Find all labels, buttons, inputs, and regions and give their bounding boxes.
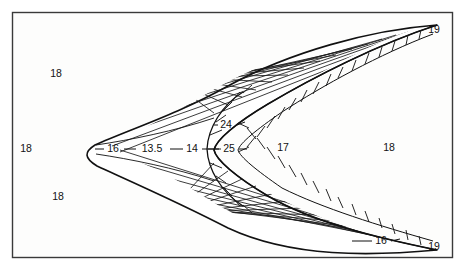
label-region-19-top-right: 19 [428, 23, 440, 35]
label-region-18-right: 18 [383, 141, 395, 153]
figure-page: 16 13.5 14 25 24 17 18 18 18 18 19 19 16 [0, 0, 465, 271]
label-region-19-bottom-right: 19 [428, 240, 440, 252]
label-centerline-1: 13.5 [142, 142, 163, 154]
label-centerline-2: 14 [186, 142, 198, 154]
label-region-18-left: 18 [20, 142, 32, 154]
label-inner-arc-24: 24 [220, 118, 232, 130]
label-region-17: 17 [277, 141, 289, 153]
label-region-18-top-left: 18 [50, 67, 62, 79]
crescent-diagram: 16 13.5 14 25 24 17 18 18 18 18 19 19 16 [0, 0, 465, 271]
label-centerline-0: 16 [107, 142, 119, 154]
label-centerline-3: 25 [223, 142, 235, 154]
label-region-18-bottom-left: 18 [52, 190, 64, 202]
label-region-16-bottom-tip: 16 [375, 234, 387, 246]
